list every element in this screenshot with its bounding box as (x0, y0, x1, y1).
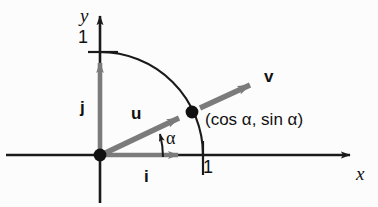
diagram-canvas (0, 0, 378, 207)
y-axis-tick-label-1: 1 (78, 28, 88, 46)
vector-v-arrow (200, 85, 250, 108)
unit-circle-arc (100, 52, 203, 155)
x-axis-label: x (356, 164, 364, 183)
unit-circle-diagram: y x 1 1 i j u v α (cos α, sin α) (0, 0, 378, 207)
y-axis-label: y (80, 6, 88, 25)
vector-v-label: v (264, 68, 273, 85)
origin-marker (94, 149, 107, 162)
x-axis-tick-label-1: 1 (203, 158, 213, 176)
vector-u-label: u (131, 105, 141, 122)
point-marker (186, 106, 199, 119)
angle-alpha-label: α (166, 129, 175, 147)
vector-j-label: j (80, 99, 85, 116)
vector-i-label: i (144, 168, 149, 185)
point-coordinates-label: (cos α, sin α) (205, 111, 303, 128)
